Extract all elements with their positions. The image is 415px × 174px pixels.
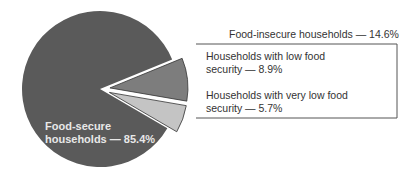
low-security-label-line2: security — 8.9% xyxy=(206,63,325,76)
food-secure-label: Food-secure households — 85.4% xyxy=(45,120,155,146)
low-security-label-line1: Households with low food xyxy=(206,50,325,63)
very-low-security-label: Households with very low food security —… xyxy=(206,89,348,114)
pie-chart xyxy=(0,0,415,174)
food-secure-label-line2: households — 85.4% xyxy=(45,133,155,146)
very-low-security-label-line2: security — 5.7% xyxy=(206,102,348,115)
food-insecure-label: Food-insecure households — 14.6% xyxy=(229,28,399,41)
food-secure-label-line1: Food-secure xyxy=(45,120,155,133)
low-security-label: Households with low food security — 8.9% xyxy=(206,50,325,75)
very-low-security-label-line1: Households with very low food xyxy=(206,89,348,102)
